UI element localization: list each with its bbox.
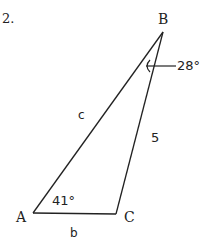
side-b-label: b — [70, 227, 78, 239]
triangle-figure — [0, 0, 215, 251]
vertex-a-label: A — [16, 210, 26, 224]
side-c-label: c — [78, 109, 85, 121]
problem-number: 2. — [2, 12, 14, 25]
angle-a-label: 41° — [52, 194, 75, 207]
side-a-label: 5 — [151, 131, 159, 144]
side-a — [116, 32, 163, 214]
vertex-c-label: C — [124, 210, 135, 224]
angle-b-label: 28° — [177, 59, 200, 72]
vertex-b-label: B — [158, 12, 168, 26]
side-b — [33, 213, 116, 214]
side-c — [33, 32, 163, 213]
